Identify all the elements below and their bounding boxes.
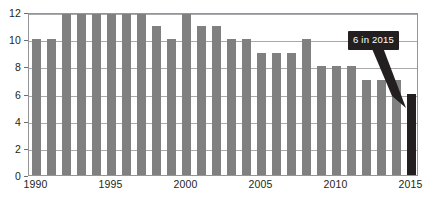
x-tick-label: 2005	[248, 178, 272, 190]
bar	[377, 80, 386, 175]
bar-chart: 024681012 199019952000200520102015 6 in …	[0, 0, 428, 202]
bar	[197, 26, 206, 175]
bar	[107, 13, 116, 175]
bar	[302, 39, 311, 175]
x-tick-label: 1990	[23, 178, 47, 190]
x-axis: 199019952000200520102015	[28, 178, 418, 198]
y-tick-label: 12	[9, 7, 21, 19]
bar	[152, 26, 161, 175]
bar	[407, 94, 416, 176]
bar	[317, 66, 326, 175]
bar	[182, 13, 191, 175]
bar	[227, 39, 236, 175]
bar	[347, 66, 356, 175]
bar	[212, 26, 221, 175]
x-tick-label: 2015	[398, 178, 422, 190]
bar	[92, 13, 101, 175]
bar	[332, 66, 341, 175]
bar	[287, 53, 296, 175]
callout-label: 6 in 2015	[348, 31, 399, 50]
bar	[362, 80, 371, 175]
bar	[272, 53, 281, 175]
bar	[32, 39, 41, 175]
bar	[392, 80, 401, 175]
bar	[137, 13, 146, 175]
bar	[242, 39, 251, 175]
bar	[62, 13, 71, 175]
bar	[77, 13, 86, 175]
y-axis: 024681012	[0, 0, 24, 202]
x-tick-label: 2010	[323, 178, 347, 190]
y-tick-label: 2	[15, 143, 21, 155]
y-tick-label: 6	[15, 89, 21, 101]
y-tick-mark	[24, 176, 28, 177]
bar	[257, 53, 266, 175]
y-tick-label: 0	[15, 170, 21, 182]
y-tick-label: 8	[15, 61, 21, 73]
y-tick-label: 10	[9, 34, 21, 46]
bar	[167, 39, 176, 175]
bar	[122, 13, 131, 175]
x-tick-label: 2000	[173, 178, 197, 190]
bar	[47, 39, 56, 175]
y-tick-label: 4	[15, 116, 21, 128]
x-tick-label: 1995	[98, 178, 122, 190]
